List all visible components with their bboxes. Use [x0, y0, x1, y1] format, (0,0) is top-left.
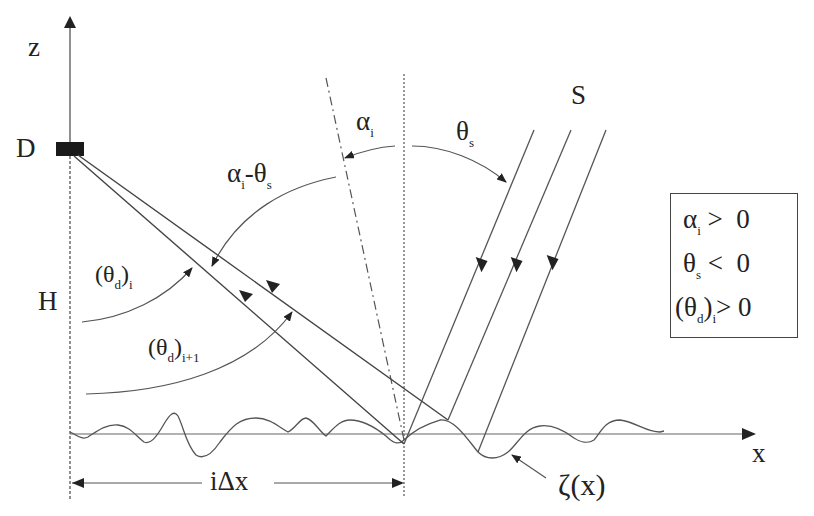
alpha-i-arc: [345, 146, 395, 158]
x-axis: [70, 428, 756, 440]
alpha-minus-theta-label: αi-θs: [227, 160, 272, 191]
surface-label: ζ(x): [558, 470, 605, 500]
incident-rays: [404, 130, 606, 452]
legend-row-theta-d: (θd)i> 0: [675, 294, 797, 325]
rough-surface-curve: [70, 413, 664, 458]
theta-d-i1-label: (θd)i+1: [148, 335, 199, 364]
theta-d-i-label: (θd)i: [95, 262, 133, 291]
sign-convention-legend: αi > 0 θs < 0 (θd)i> 0: [670, 193, 798, 338]
source-label: S: [571, 82, 586, 109]
i-delta-x-label: iΔx: [210, 468, 248, 495]
z-axis: [64, 16, 76, 500]
legend-row-theta-s: θs < 0: [683, 250, 797, 281]
theta-s-arc: [412, 146, 506, 182]
scattered-rays: [74, 155, 448, 444]
height-label: H: [38, 288, 58, 315]
detector-label: D: [16, 135, 36, 162]
scattering-geometry-diagram: z x D H S αi θs αi-θs (θd)i (θd)i+1 iΔx …: [0, 0, 814, 516]
detector-icon: [56, 142, 84, 156]
theta-s-label: θs: [456, 118, 474, 149]
alpha-i-label: αi: [356, 108, 374, 139]
x-axis-label: x: [752, 440, 766, 467]
z-axis-label: z: [28, 34, 40, 61]
surface-pointer-arrow: [512, 455, 546, 478]
legend-row-alpha: αi > 0: [683, 206, 797, 237]
